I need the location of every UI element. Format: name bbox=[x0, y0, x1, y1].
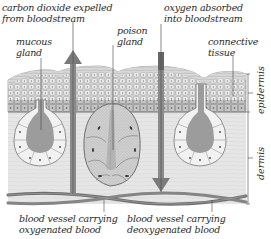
vessel-oxygenated-label: blood vessel carrying oxygenated blood bbox=[19, 214, 118, 235]
vessel-deox-line1: blood vessel carrying bbox=[127, 214, 226, 225]
co2-label-line2: from bloodstream bbox=[2, 14, 112, 25]
oxygen-label-line2: into bloodstream bbox=[164, 14, 243, 25]
vessel-ox-line1: blood vessel carrying bbox=[19, 214, 118, 225]
poison-label-line2: gland bbox=[117, 37, 147, 48]
mucous-label-line2: gland bbox=[16, 48, 52, 59]
connective-tissue-label: connective tissue bbox=[208, 37, 258, 58]
dermis-label: dermis bbox=[255, 147, 266, 180]
vessel-deoxygenated-label: blood vessel carrying deoxygenated blood bbox=[127, 214, 226, 235]
oxygen-label-line1: oxygen absorbed bbox=[164, 3, 243, 14]
mucous-label-line1: mucous bbox=[16, 37, 52, 48]
co2-label-line1: carbon dioxide expelled bbox=[2, 3, 112, 14]
poison-gland bbox=[84, 104, 140, 186]
poison-label-line1: poison bbox=[117, 26, 147, 37]
connective-label-line2: tissue bbox=[208, 48, 258, 59]
co2-label: carbon dioxide expelled from bloodstream bbox=[2, 3, 112, 24]
poison-gland-label: poison gland bbox=[117, 26, 147, 47]
vessel-deox-line2: deoxygenated blood bbox=[127, 225, 226, 236]
epidermis-label: epidermis bbox=[255, 66, 266, 114]
vessel-ox-line2: oxygenated blood bbox=[19, 225, 118, 236]
mucous-gland-label: mucous gland bbox=[16, 37, 52, 58]
connective-label-line1: connective bbox=[208, 37, 258, 48]
oxygen-label: oxygen absorbed into bloodstream bbox=[164, 3, 243, 24]
